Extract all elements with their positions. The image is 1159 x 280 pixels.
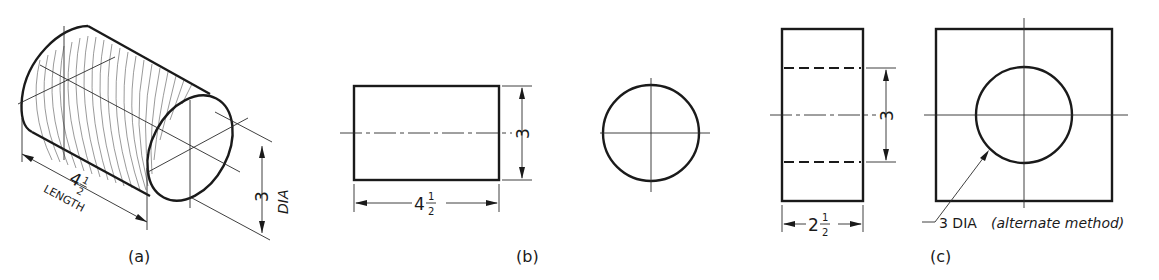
arrowhead [883, 69, 889, 81]
width-dimension-text: 2 1 2 [808, 212, 830, 238]
svg-text:3: 3 [252, 191, 272, 202]
caption-b: (b) [516, 247, 539, 266]
panel-a-isometric-cylinder: 4 1 2 LENGTH 3 DIA (a) [18, 26, 291, 266]
arrowhead [850, 221, 862, 227]
panel-c-alternate-method: 3 2 1 2 3 DIA (alternate method) (c) [770, 18, 1128, 266]
dia-extension-bottom [192, 198, 270, 240]
arrowhead [259, 146, 265, 158]
arrowhead [783, 221, 795, 227]
arrowhead [519, 87, 525, 99]
axis-centerline [40, 65, 240, 172]
svg-text:3: 3 [877, 110, 897, 121]
hole-dimension-text: 3 [877, 110, 897, 121]
arrowhead [486, 200, 498, 206]
svg-text:2: 2 [822, 227, 828, 238]
height-dimension-text: 3 [513, 128, 533, 139]
arrowhead [259, 221, 265, 233]
caption-a: (a) [128, 247, 150, 266]
svg-text:3: 3 [513, 128, 533, 139]
svg-text:1: 1 [428, 191, 434, 202]
panel-b-two-views: 3 4 1 2 (b) [340, 78, 710, 266]
caption-c: (c) [930, 247, 951, 266]
arrowhead [135, 214, 147, 222]
note-dia: 3 DIA [939, 215, 977, 231]
svg-text:DIA: DIA [275, 190, 291, 215]
technical-drawing: 4 1 2 LENGTH 3 DIA (a) 3 [0, 0, 1159, 280]
leader-line [922, 153, 987, 222]
note-alternate-method: (alternate method) [991, 215, 1124, 231]
front-diagonal-centerline [148, 118, 248, 172]
svg-text:4: 4 [414, 194, 425, 214]
leader-arrowhead [980, 150, 989, 161]
arrowhead [883, 149, 889, 161]
arrowhead [22, 154, 34, 162]
svg-text:2: 2 [808, 215, 819, 235]
dia-label: DIA [275, 190, 291, 215]
arrowhead [355, 200, 367, 206]
svg-text:2: 2 [428, 206, 434, 217]
back-ellipse-outline [21, 26, 88, 132]
dia-extension-top [215, 112, 272, 142]
arrowhead [519, 167, 525, 179]
dia-dimension-text: 3 [252, 191, 272, 202]
svg-text:1: 1 [822, 212, 828, 223]
length-dimension-text: 4 1 2 [414, 191, 436, 217]
